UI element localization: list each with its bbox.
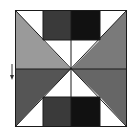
down-arrow-icon [9, 64, 15, 80]
quilt-block-diagram [0, 0, 136, 132]
bottom-left-dark-rect [43, 97, 71, 127]
top-left-dark-rect [43, 10, 71, 40]
top-right-black-rect [71, 10, 100, 40]
bottom-right-black-rect [71, 97, 100, 127]
block-outlines [15, 10, 127, 127]
